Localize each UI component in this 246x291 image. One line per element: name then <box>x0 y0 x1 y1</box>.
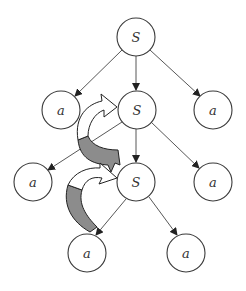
node-n4: a <box>194 91 232 129</box>
svg-text:a: a <box>57 103 65 118</box>
node-n9: a <box>167 234 205 272</box>
node-n3: S <box>118 91 156 129</box>
svg-text:a: a <box>209 175 217 190</box>
svg-text:S: S <box>132 175 141 190</box>
derivation-tree-diagram: S a S a a S a a a <box>0 0 246 291</box>
edge-n6-n9 <box>149 197 177 235</box>
node-n6: S <box>117 163 155 201</box>
node-n7: a <box>194 163 232 201</box>
edge-n6-n8 <box>96 199 126 235</box>
node-n1: S <box>117 18 155 56</box>
edge-n1-n2 <box>75 50 122 96</box>
svg-text:a: a <box>209 103 217 118</box>
arrow-band-white <box>77 94 117 140</box>
svg-text:S: S <box>132 30 141 45</box>
node-n5: a <box>14 163 52 201</box>
arrow-band-gray <box>66 185 97 232</box>
svg-text:S: S <box>133 103 142 118</box>
arrow-band-gray <box>78 136 120 172</box>
curved-arrow-lower <box>66 163 117 232</box>
svg-text:a: a <box>182 246 190 261</box>
svg-text:a: a <box>83 246 91 261</box>
node-n8: a <box>68 234 106 272</box>
node-n2: a <box>42 91 80 129</box>
svg-text:a: a <box>29 175 37 190</box>
curved-arrow-upper <box>77 94 120 172</box>
edge-n1-n4 <box>150 50 200 96</box>
edge-n3-n7 <box>151 122 199 168</box>
